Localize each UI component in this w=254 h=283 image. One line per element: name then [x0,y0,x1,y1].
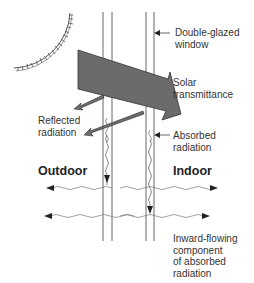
outward-arrowheads [44,185,54,219]
label-inward-flowing-component: Inward-flowing component of absorbed rad… [173,233,237,279]
inward-wavy-arrows [120,187,216,218]
outward-wavy-arrows [50,187,134,218]
sun-icon [14,13,73,71]
label-absorbed-radiation: Absorbed radiation [173,130,216,153]
label-indoor: Indoor [173,164,212,178]
label-outdoor: Outdoor [38,164,87,178]
label-solar-transmittance: Solar transmittance [173,77,233,100]
label-double-glazed-window: Double-glazed window [175,27,240,50]
label-reflected-radiation: Reflected radiation [38,115,80,138]
solar-transmittance-arrow [78,50,181,120]
inward-arrowheads [202,185,218,219]
